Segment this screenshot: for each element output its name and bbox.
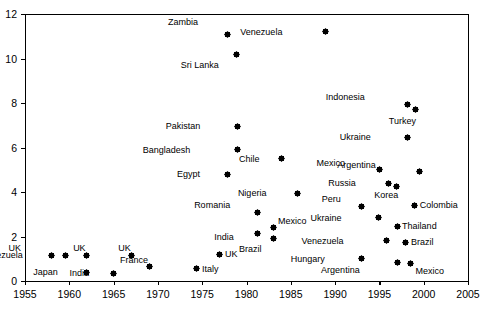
diamond-marker-icon: [394, 223, 401, 230]
x-tick-label: 2000: [399, 288, 449, 300]
y-tick-mark: [21, 281, 25, 282]
diamond-marker-icon: [254, 230, 261, 237]
data-point-label: Italy: [202, 265, 219, 274]
data-point-label: Mexico: [278, 217, 307, 226]
x-tick-label: 1985: [266, 288, 316, 300]
data-point-label: Venezuela: [301, 237, 343, 246]
x-tick-mark: [424, 281, 425, 285]
x-tick-mark: [247, 281, 248, 285]
data-point-label: Chile: [239, 155, 260, 164]
x-tick-mark: [468, 281, 469, 285]
data-point-label: Peru: [322, 195, 341, 204]
data-point-label: Brazil: [411, 238, 434, 247]
data-point-label: Brazil: [239, 245, 262, 254]
data-point-label: Pakistan: [166, 122, 201, 131]
data-point-label: Romania: [194, 201, 230, 210]
y-tick-mark: [21, 103, 25, 104]
x-tick-label: 2005: [443, 288, 488, 300]
data-point-label: Ukraine: [311, 214, 342, 223]
x-tick-label: 1960: [44, 288, 94, 300]
y-tick-mark: [21, 14, 25, 15]
data-point-label: France: [120, 256, 148, 265]
x-tick-label: 1975: [177, 288, 227, 300]
x-tick-label: 1995: [354, 288, 404, 300]
data-point-label: Sri Lanka: [181, 61, 219, 70]
data-point-label: UK: [118, 244, 131, 253]
y-tick-label: 8: [0, 97, 17, 109]
data-point-label: UK: [225, 250, 238, 259]
y-tick-label: 6: [0, 142, 17, 154]
y-tick-mark: [21, 192, 25, 193]
data-point-label: India: [214, 233, 234, 242]
y-tick-label: 10: [0, 53, 17, 65]
plot-top-border: [25, 14, 469, 15]
data-point-label: Bangladesh: [143, 146, 191, 155]
data-point-label: India: [70, 269, 90, 278]
data-point-label: Mexico: [415, 267, 444, 276]
data-point-label: Turkey: [389, 117, 416, 126]
data-point-label: Indonesia: [326, 93, 365, 102]
data-point-label: Venezuela: [0, 251, 23, 260]
diamond-marker-icon: [385, 180, 392, 187]
data-point-label: Japan: [33, 268, 58, 277]
plot-right-border: [468, 14, 469, 281]
y-tick-mark: [21, 148, 25, 149]
y-tick-mark: [21, 237, 25, 238]
data-point-label: Venezuela: [240, 28, 282, 37]
x-tick-mark: [202, 281, 203, 285]
data-point-label: Mexico: [316, 159, 345, 168]
data-point-label: Nigeria: [238, 189, 267, 198]
data-point-label: Argentina: [321, 266, 360, 275]
diamond-marker-icon: [394, 259, 401, 266]
y-axis-line: [25, 14, 26, 281]
x-tick-mark: [379, 281, 380, 285]
diamond-marker-icon: [393, 183, 400, 190]
x-tick-mark: [158, 281, 159, 285]
x-tick-mark: [69, 281, 70, 285]
x-tick-mark: [335, 281, 336, 285]
x-tick-label: 1980: [222, 288, 272, 300]
data-point-label: Egypt: [177, 170, 200, 179]
y-tick-label: 0: [0, 275, 17, 287]
y-tick-mark: [21, 59, 25, 60]
data-point-label: UK: [73, 244, 86, 253]
y-tick-label: 4: [0, 186, 17, 198]
scatter-chart: 1955196019651970197519801985199019952000…: [0, 0, 488, 315]
y-tick-label: 2: [0, 231, 17, 243]
data-point-label: Hungary: [291, 255, 325, 264]
x-tick-label: 1990: [310, 288, 360, 300]
data-point-label: Colombia: [420, 201, 458, 210]
x-tick-label: 1970: [133, 288, 183, 300]
data-point-label: Zambia: [168, 18, 198, 27]
x-tick-label: 1965: [89, 288, 139, 300]
diamond-marker-icon: [223, 30, 230, 37]
x-tick-label: 1955: [0, 288, 50, 300]
diamond-marker-icon: [407, 260, 414, 267]
data-point-label: Thailand: [402, 222, 437, 231]
data-point-label: Russia: [328, 179, 356, 188]
y-tick-label: 12: [0, 8, 17, 20]
x-tick-mark: [25, 281, 26, 285]
data-point-label: Ukraine: [340, 133, 371, 142]
data-point-label: Korea: [374, 191, 398, 200]
diamond-marker-icon: [254, 208, 261, 215]
x-tick-mark: [114, 281, 115, 285]
x-tick-mark: [291, 281, 292, 285]
diamond-marker-icon: [223, 171, 230, 178]
